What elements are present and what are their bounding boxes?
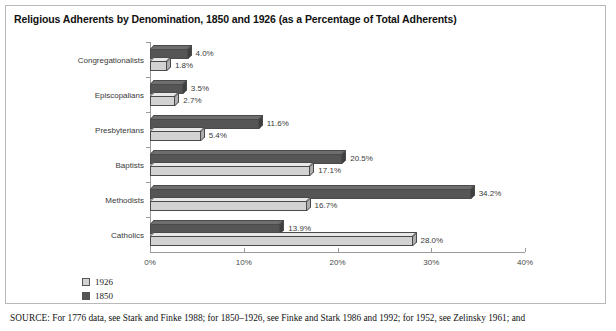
y-tick [146, 217, 150, 218]
x-tick [338, 248, 339, 252]
bar-value-label: 5.4% [209, 130, 227, 139]
y-tick [146, 182, 150, 183]
y-tick [146, 42, 150, 43]
bar-value-label: 28.0% [421, 235, 444, 244]
bar-value-label: 11.6% [267, 118, 289, 127]
bar-side-face [342, 150, 346, 164]
x-tick [525, 248, 526, 252]
bar-value-label: 34.2% [479, 188, 502, 197]
x-tick-label: 40% [517, 258, 533, 267]
bar-face [150, 201, 307, 211]
bar-top-face [150, 185, 475, 189]
bar-1926-methodists [150, 201, 307, 211]
y-axis-line [150, 42, 151, 252]
category-label: Presbyterians [44, 125, 144, 134]
x-tick [150, 248, 151, 252]
source-label: SOURCE: [10, 313, 50, 323]
source-note: SOURCE: For 1776 data, see Stark and Fin… [10, 313, 610, 323]
bar-1926-episcopalians [150, 96, 175, 106]
legend-swatch [82, 292, 90, 300]
legend-label: 1926 [95, 277, 113, 287]
bar-top-face [150, 80, 187, 84]
bar-value-label: 13.9% [288, 223, 311, 232]
bar-face [150, 166, 310, 176]
x-tick-label: 20% [329, 258, 345, 267]
bar-top-face [150, 197, 311, 201]
bar-value-label: 17.1% [318, 165, 341, 174]
x-tick [431, 248, 432, 252]
bar-1926-presbyterians [150, 131, 201, 141]
bar-top-face [150, 220, 284, 224]
bar-face [150, 131, 201, 141]
bar-value-label: 16.7% [315, 200, 338, 209]
bar-1926-congregationalists [150, 61, 167, 71]
bar-face [150, 61, 167, 71]
legend-swatch [82, 278, 90, 286]
bar-top-face [150, 232, 417, 236]
category-label: Congregationalists [44, 55, 144, 64]
legend-label: 1850 [95, 291, 113, 301]
x-tick-label: 10% [236, 258, 252, 267]
bar-top-face [150, 127, 205, 131]
y-tick [146, 112, 150, 113]
bar-value-label: 3.5% [191, 83, 209, 92]
bar-top-face [150, 45, 192, 49]
bar-top-face [150, 115, 263, 119]
bar-side-face [175, 92, 179, 106]
category-label: Episcopalians [44, 90, 144, 99]
bar-1926-catholics [150, 236, 413, 246]
bar-side-face [167, 57, 171, 71]
bar-top-face [150, 162, 314, 166]
x-tick [244, 248, 245, 252]
bar-face [150, 96, 175, 106]
bar-face [150, 236, 413, 246]
x-tick-label: 0% [144, 258, 156, 267]
bar-value-label: 1.8% [175, 60, 193, 69]
chart-plot-area: 4.0%1.8%3.5%2.7%11.6%5.4%20.5%17.1%34.2%… [0, 0, 601, 299]
category-label: Catholics [44, 230, 144, 239]
bar-side-face [310, 162, 314, 176]
bar-1926-baptists [150, 166, 310, 176]
category-label: Baptists [44, 160, 144, 169]
x-axis-line [150, 252, 525, 253]
source-body: For 1776 data, see Stark and Finke 1988;… [50, 313, 525, 323]
bar-value-label: 20.5% [350, 153, 373, 162]
bar-value-label: 2.7% [183, 95, 201, 104]
y-tick [146, 147, 150, 148]
bar-top-face [150, 150, 346, 154]
x-tick-label: 30% [423, 258, 439, 267]
category-label: Methodists [44, 195, 144, 204]
y-tick [146, 77, 150, 78]
figure-panel: Religious Adherents by Denomination, 185… [0, 0, 616, 331]
bar-value-label: 4.0% [196, 48, 214, 57]
